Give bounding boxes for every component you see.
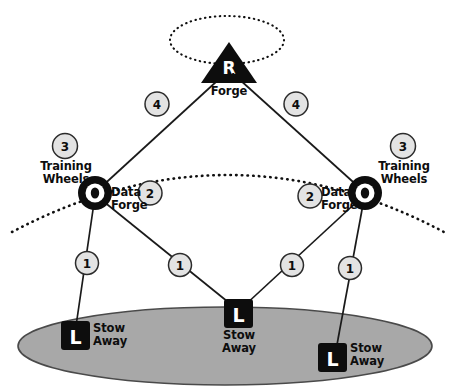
training-wheels-label-left: Training Wheels [33,160,99,186]
training-wheels-label-right: Training Wheels [371,160,437,186]
badge-left-leaf-mid: 1 [169,254,192,277]
stow-away-label-left: Stow Away [93,322,141,348]
badge-root-right: 4 [284,92,308,116]
stow-away-label-right: Stow Away [350,342,398,368]
badge-label: 3 [61,140,69,154]
badge-label: 1 [346,262,354,276]
data-forge-label-left: Data Forge [111,186,153,212]
badge-label: 1 [288,259,296,273]
stow-away-label-middle: Stow Away [215,329,263,355]
badge-label: 4 [292,98,300,112]
badge-right-leaf-right: 1 [339,257,362,280]
node-leaf-left[interactable]: L [61,321,90,350]
badge-label: 1 [83,257,91,271]
node-glyph-label: L [69,326,81,348]
badge-right-leaf-mid: 1 [281,254,304,277]
edge-right-orbit-to-leaf-middle [244,197,362,306]
badge-label: 1 [176,259,184,273]
badge-label: 4 [153,98,161,112]
badge-training-left: 3 [53,134,78,159]
node-glyph-label: L [326,348,338,370]
data-forge-label-right: Data Forge [321,186,363,212]
data-forge-label-root: Data Forge [206,72,252,98]
badge-root-left: 4 [145,92,169,116]
node-leaf-middle[interactable]: L [224,299,253,328]
badge-label: 3 [399,140,407,154]
badge-training-right: 3 [391,134,416,159]
network-diagram: 4 4 2 2 1 1 1 1 [0,0,454,389]
badge-right-orbit: 2 [298,184,322,208]
edge-left-orbit-to-leaf-middle [98,197,233,306]
badge-label: 2 [306,190,314,204]
node-leaf-right[interactable]: L [318,343,347,372]
node-glyph-label: L [232,304,244,326]
badge-left-leaf-left: 1 [76,252,99,275]
